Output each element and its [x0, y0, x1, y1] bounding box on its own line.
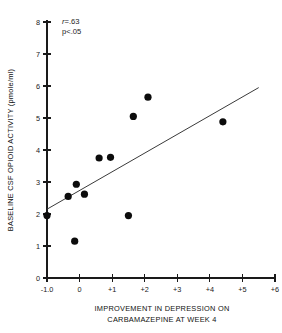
x-axis-title-line2: CARBAMAZEPINE AT WEEK 4	[107, 315, 216, 324]
x-tick-group: -1.00+1+2+3+4+5+6	[41, 274, 279, 294]
plot-canvas: 012345678 -1.00+1+2+3+4+5+6 r=.63 p<.05 …	[0, 0, 282, 333]
x-tick-label: +5	[238, 285, 246, 294]
data-point	[73, 181, 80, 188]
data-point	[219, 118, 226, 125]
regression-line	[47, 88, 259, 210]
y-tick-label: 0	[36, 274, 40, 283]
correlation-value: =.63	[65, 17, 80, 26]
x-axis: -1.00+1+2+3+4+5+6	[41, 274, 279, 294]
x-axis-title-line1: IMPROVEMENT IN DEPRESSION ON	[95, 304, 230, 313]
data-point-group	[43, 94, 226, 245]
x-tick-label: +3	[173, 285, 181, 294]
data-point	[107, 154, 114, 161]
data-point	[81, 191, 88, 198]
y-tick-label: 2	[36, 210, 40, 219]
significance-annotation: p<.05	[62, 27, 81, 36]
y-tick-label: 3	[36, 178, 40, 187]
x-tick-label: +2	[141, 285, 149, 294]
x-tick-label: +6	[271, 285, 279, 294]
x-tick-label: +1	[108, 285, 116, 294]
y-tick-label: 5	[36, 114, 40, 123]
x-tick-label: -1.0	[41, 285, 54, 294]
x-tick-label: 0	[78, 285, 82, 294]
y-tick-label: 4	[36, 146, 40, 155]
y-tick-label: 1	[36, 242, 40, 251]
data-point	[125, 212, 132, 219]
y-tick-label: 8	[36, 18, 40, 27]
y-axis-title: BASELINE CSF OPIOID ACTIVITY (pmole/ml)	[6, 69, 15, 231]
data-point	[130, 113, 137, 120]
y-axis: 012345678	[36, 18, 51, 283]
data-point	[43, 212, 50, 219]
data-point	[144, 94, 151, 101]
scatter-plot-figure: 012345678 -1.00+1+2+3+4+5+6 r=.63 p<.05 …	[0, 0, 282, 333]
y-tick-label: 6	[36, 82, 40, 91]
data-point	[96, 154, 103, 161]
x-tick-label: +4	[206, 285, 214, 294]
data-point	[65, 193, 72, 200]
y-tick-label: 7	[36, 50, 40, 59]
correlation-annotation: r=.63	[62, 17, 80, 26]
y-tick-group: 012345678	[36, 18, 51, 283]
data-point	[71, 238, 78, 245]
